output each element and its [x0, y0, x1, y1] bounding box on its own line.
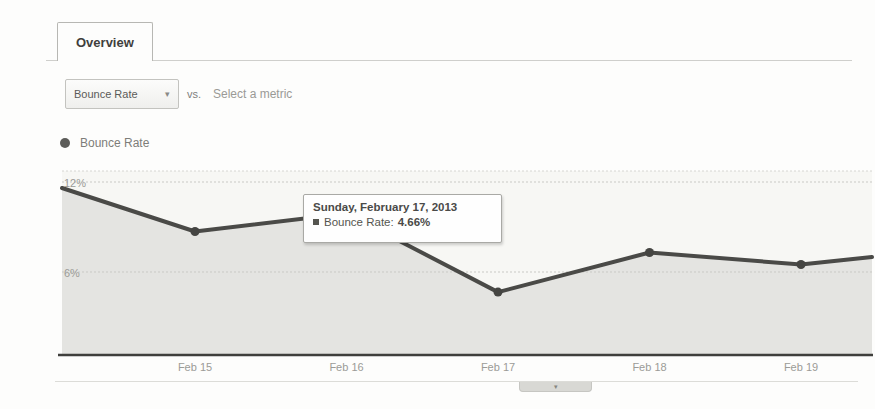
chart-legend: Bounce Rate — [60, 136, 149, 150]
tooltip-series-marker-icon — [313, 219, 319, 225]
y-tick-label: 12% — [64, 177, 86, 189]
chart-tooltip: Sunday, February 17, 2013 Bounce Rate: 4… — [303, 194, 502, 243]
x-tick-label: Feb 15 — [178, 361, 212, 373]
tooltip-series-label: Bounce Rate: — [324, 216, 394, 228]
tab-overview[interactable]: Overview — [57, 22, 153, 61]
data-point-marker[interactable] — [191, 227, 200, 236]
tooltip-date: Sunday, February 17, 2013 — [313, 201, 492, 213]
primary-metric-dropdown[interactable]: Bounce Rate ▾ — [65, 79, 179, 109]
x-tick-label: Feb 17 — [481, 361, 515, 373]
analytics-overview-panel: Overview Bounce Rate ▾ vs. Select a metr… — [0, 0, 875, 409]
compare-metric-selector[interactable]: Select a metric — [213, 87, 292, 101]
tabstrip-divider — [46, 60, 852, 61]
chart-collapse-handle[interactable]: ▾ — [519, 382, 592, 392]
tab-overview-label: Overview — [76, 35, 134, 50]
vs-label: vs. — [187, 88, 201, 100]
chevron-down-icon: ▾ — [165, 89, 170, 99]
panel-bottom-divider — [55, 381, 858, 382]
data-point-marker[interactable] — [645, 248, 654, 257]
x-tick-label: Feb 16 — [329, 361, 363, 373]
primary-metric-dropdown-label: Bounce Rate — [74, 88, 138, 100]
legend-series-label: Bounce Rate — [80, 136, 149, 150]
tooltip-value: 4.66% — [398, 216, 431, 228]
chevron-down-icon: ▾ — [554, 383, 558, 390]
tooltip-series-row: Bounce Rate: 4.66% — [313, 216, 492, 228]
data-point-marker[interactable] — [797, 260, 806, 269]
data-point-marker[interactable] — [494, 288, 503, 297]
legend-dot-icon — [60, 138, 70, 148]
x-tick-label: Feb 19 — [784, 361, 818, 373]
x-tick-label: Feb 18 — [632, 361, 666, 373]
y-tick-label: 6% — [64, 267, 80, 279]
